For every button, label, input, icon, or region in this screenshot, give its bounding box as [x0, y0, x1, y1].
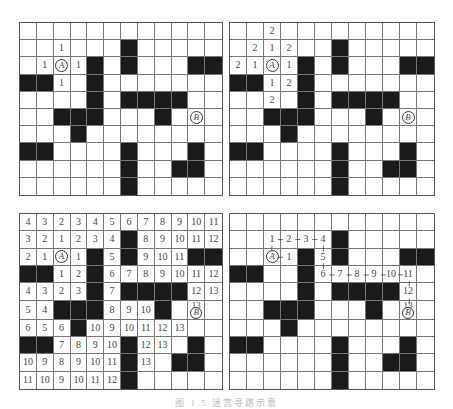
- maze-cell: [281, 143, 298, 160]
- maze-cell: [315, 57, 332, 74]
- wall-cell: [71, 109, 88, 126]
- distance-label: 10: [174, 269, 184, 279]
- maze-cell: [138, 40, 155, 57]
- maze-cell: 8: [155, 214, 172, 231]
- maze-cell: 11: [188, 231, 205, 248]
- maze-cell: [315, 161, 332, 178]
- maze-cell: [281, 266, 298, 283]
- maze-cell: [281, 354, 298, 371]
- distance-label: 8: [59, 357, 64, 367]
- distance-label: 6: [321, 269, 326, 279]
- distance-label: 11: [403, 269, 413, 279]
- maze-cell: [138, 372, 155, 389]
- maze-cell: [349, 178, 366, 195]
- distance-label: 8: [110, 305, 115, 315]
- distance-label: 1: [76, 60, 81, 70]
- maze-cell: [54, 143, 71, 160]
- maze-cell: [172, 337, 189, 354]
- maze-cell: [417, 372, 434, 389]
- maze-cell: 6: [104, 266, 121, 283]
- maze-cell: 12: [400, 283, 417, 300]
- maze-cell: [155, 40, 172, 57]
- maze-cell: [332, 301, 349, 320]
- maze-cell: [349, 372, 366, 389]
- maze-cell: [247, 161, 264, 178]
- maze-cell: [230, 214, 247, 231]
- distance-label: 12: [209, 269, 219, 279]
- maze-cell: 6: [315, 266, 332, 283]
- maze-cell: 1: [264, 231, 281, 248]
- wall-cell: [281, 301, 298, 320]
- maze-cell: [230, 354, 247, 371]
- distance-label: 7: [126, 269, 131, 279]
- maze-cell: [315, 109, 332, 126]
- maze-cell: [71, 23, 88, 40]
- wall-cell: [332, 283, 349, 300]
- wall-cell: [138, 283, 155, 300]
- maze-cell: 12: [205, 231, 222, 248]
- maze-cell: [400, 23, 417, 40]
- maze-cell: [383, 320, 400, 337]
- maze-cell: 11: [20, 372, 37, 389]
- distance-label: 10: [40, 375, 50, 385]
- maze-cell: [20, 109, 37, 126]
- maze-cell: [155, 143, 172, 160]
- maze-cell: [264, 354, 281, 371]
- maze-cell: 1: [54, 266, 71, 283]
- maze-cell: 4: [104, 231, 121, 248]
- maze-cell: 9: [37, 354, 54, 371]
- maze-cell: 7: [138, 214, 155, 231]
- maze-cell: [247, 109, 264, 126]
- distance-label: 9: [76, 357, 81, 367]
- distance-label: 2: [287, 78, 292, 88]
- distance-label: 2: [287, 234, 292, 244]
- distance-label: 12: [141, 340, 151, 350]
- maze-cell: [104, 126, 121, 143]
- distance-label: 7: [59, 340, 64, 350]
- maze-cell: [281, 372, 298, 389]
- maze-cell: 2: [54, 283, 71, 300]
- maze-cell: 6: [121, 214, 138, 231]
- distance-label: 10: [107, 340, 117, 350]
- distance-label: 2: [76, 234, 81, 244]
- maze-cell: [230, 372, 247, 389]
- maze-cell: 3: [71, 283, 88, 300]
- wall-cell: [188, 249, 205, 266]
- maze-cell: [155, 354, 172, 371]
- maze-cell: [366, 75, 383, 92]
- wall-cell: [188, 143, 205, 160]
- maze-cell: [315, 301, 332, 320]
- maze-cell: 11: [172, 249, 189, 266]
- maze-cell: [417, 283, 434, 300]
- maze-cell: 2: [54, 214, 71, 231]
- maze-cell: [247, 301, 264, 320]
- maze-cell: [281, 283, 298, 300]
- maze-cell: 4: [87, 214, 104, 231]
- maze-cell: 10: [87, 320, 104, 337]
- wall-cell: [37, 337, 54, 354]
- maze-cell: [138, 161, 155, 178]
- maze-cell: 4: [20, 214, 37, 231]
- maze-cell: 1: [71, 57, 88, 74]
- maze-cell: [188, 75, 205, 92]
- wall-cell: [332, 249, 349, 266]
- maze-cell: [332, 75, 349, 92]
- marker-b-icon: B: [402, 111, 415, 124]
- maze-cell: 2: [37, 231, 54, 248]
- distance-label: 4: [25, 217, 30, 227]
- maze-cell: [20, 23, 37, 40]
- maze-cell: [281, 214, 298, 231]
- maze-cell: [20, 178, 37, 195]
- wall-cell: [298, 109, 315, 126]
- grid-step-2: 221221A1122B: [229, 22, 435, 196]
- distance-label: 7: [338, 269, 343, 279]
- wall-cell: [121, 231, 138, 248]
- maze-cell: 1: [54, 75, 71, 92]
- wall-cell: [247, 337, 264, 354]
- distance-label: 1: [270, 43, 275, 53]
- wall-cell: [121, 40, 138, 57]
- maze-cell: [54, 126, 71, 143]
- distance-label: 12: [209, 234, 219, 244]
- wall-cell: [332, 231, 349, 248]
- wall-cell: [417, 249, 434, 266]
